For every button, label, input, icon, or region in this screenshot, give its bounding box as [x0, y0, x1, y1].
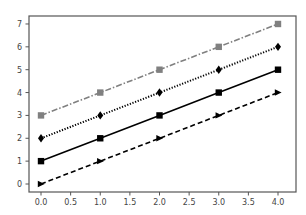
data-point-marker [216, 66, 222, 74]
data-point-marker [97, 89, 103, 95]
series-2 [38, 43, 281, 143]
y-axis: 01234567 [17, 20, 29, 189]
data-point-marker [38, 158, 44, 164]
x-tick-label: 1.5 [124, 198, 137, 207]
x-axis: 0.00.51.01.52.02.53.03.54.0 [35, 192, 285, 207]
x-tick-label: 3.5 [242, 198, 255, 207]
data-point-marker [38, 134, 44, 142]
y-tick-label: 5 [17, 66, 22, 75]
line-chart: 0.00.51.01.52.02.53.03.54.0 01234567 [0, 0, 306, 215]
data-point-marker [38, 112, 44, 118]
data-point-marker [97, 158, 104, 164]
data-point-marker [216, 89, 222, 95]
y-tick-label: 7 [17, 20, 22, 29]
x-tick-label: 0.5 [64, 198, 77, 207]
series-3 [38, 67, 281, 165]
series-1 [38, 21, 281, 119]
data-point-marker [216, 112, 223, 118]
data-point-marker [38, 181, 45, 187]
x-tick-label: 2.0 [153, 198, 166, 207]
plot-frame [29, 16, 296, 192]
series-layer [38, 21, 282, 187]
x-tick-label: 3.0 [212, 198, 225, 207]
data-point-marker [97, 111, 103, 119]
data-point-marker [275, 21, 281, 27]
y-tick-label: 2 [17, 134, 22, 143]
data-point-marker [275, 43, 281, 51]
y-tick-label: 3 [17, 111, 22, 120]
data-point-marker [157, 88, 163, 96]
data-point-marker [275, 89, 282, 95]
x-tick-label: 4.0 [272, 198, 285, 207]
x-tick-label: 0.0 [35, 198, 48, 207]
x-tick-label: 1.0 [94, 198, 107, 207]
data-point-marker [97, 135, 103, 141]
y-tick-label: 0 [17, 180, 22, 189]
data-point-marker [275, 67, 281, 73]
data-point-marker [216, 44, 222, 50]
series-4 [38, 89, 282, 187]
y-tick-label: 6 [17, 43, 22, 52]
data-point-marker [156, 135, 163, 141]
x-tick-label: 2.5 [183, 198, 196, 207]
data-point-marker [156, 67, 162, 73]
data-point-marker [156, 112, 162, 118]
plot-border [29, 16, 296, 192]
y-tick-label: 1 [17, 157, 22, 166]
y-tick-label: 4 [17, 89, 22, 98]
